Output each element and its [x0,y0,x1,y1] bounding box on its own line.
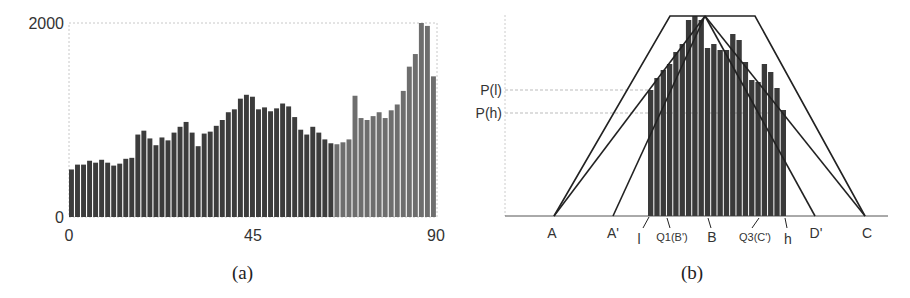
histogram-bar [262,107,267,217]
histogram-bar [87,161,92,217]
caption-a: (a) [232,262,253,284]
histogram-bar [159,137,164,217]
histogram-bar [135,135,140,217]
histogram-bar [178,127,183,217]
histogram-bar [111,166,116,217]
histogram-panel-b: P(l) P(h) A A' l Q1(B') B Q3(C') h D' C … [460,0,910,298]
histogram-bar [654,78,659,216]
histogram-bar [711,44,716,216]
histogram-bar [280,104,285,217]
histogram-bar [705,48,710,216]
caption-b: (b) [681,262,703,284]
histogram-bar [304,135,309,217]
histogram-bar [724,50,729,216]
histogram-bar [99,160,104,217]
histogram-bar [220,120,225,217]
histogram-bar [389,110,394,217]
histogram-bar [347,139,352,217]
histogram-bar [736,40,741,216]
histogram-bar [425,26,430,217]
histogram-bar [648,90,653,216]
histogram-bar [250,97,255,217]
histogram-bar [334,144,339,217]
x-label-D-prime: D' [810,225,823,241]
x-label-C: C [862,225,872,241]
arrow-h [785,218,787,228]
histogram-bar [147,138,152,217]
arrow-Q3 [752,218,759,228]
histogram-bar [371,116,376,217]
histogram-bar [129,158,134,217]
histogram-b-plot: P(l) P(h) A A' l Q1(B') B Q3(C') h D' C [460,0,910,298]
histogram-bar [75,165,80,217]
histogram-bar [268,111,273,217]
histogram-a-bars [69,23,436,217]
x-label-B: B [707,229,716,245]
histogram-bar [718,50,723,216]
histogram-bar [692,16,697,216]
histogram-bar [196,146,201,217]
histogram-bar [768,72,773,216]
histogram-bar [407,67,412,217]
histogram-bar [377,112,382,217]
histogram-bar [226,112,231,217]
histogram-bar [232,109,237,217]
histogram-b-bars [648,16,786,216]
histogram-bar [316,133,321,217]
histogram-bar [172,133,177,217]
histogram-bar [401,91,406,217]
histogram-bar [661,70,666,216]
histogram-bar [256,109,261,217]
histogram-bar [105,163,110,217]
histogram-bar [184,122,189,217]
histogram-bar [730,34,735,216]
x-label-A: A [547,225,557,241]
histogram-bar [431,76,436,217]
histogram-bar [123,159,128,217]
y-tick-0: 0 [55,209,64,226]
histogram-bar [667,64,672,216]
arrow-Q1 [667,218,670,228]
histogram-bar [238,99,243,217]
histogram-bar [395,104,400,217]
histogram-bar [286,106,291,217]
x-label-h: h [784,231,792,247]
histogram-panel-a: 2000 0 0 45 90 (a) [0,0,460,298]
histogram-bar [117,164,122,217]
y-label-P-h: P(h) [476,105,502,121]
histogram-bar [298,130,303,217]
histogram-bar [322,139,327,217]
y-tick-2000: 2000 [28,15,64,32]
histogram-bar [69,169,74,217]
histogram-bar [413,54,418,217]
histogram-bar [699,20,704,216]
histogram-bar [93,163,98,217]
histogram-bar [359,118,364,217]
histogram-bar [353,96,358,217]
x-label-A-prime: A' [607,225,619,241]
histogram-bar [365,120,370,217]
histogram-bar [310,127,315,217]
histogram-a-plot: 2000 0 0 45 90 [0,0,460,298]
histogram-bar [383,118,388,217]
x-label-l: l [637,231,640,247]
histogram-bar [755,82,760,216]
histogram-bar [419,23,424,217]
histogram-bar [274,108,279,217]
arrow-l [643,217,649,228]
histogram-bar [153,145,158,217]
histogram-bar [328,143,333,217]
histogram-bar [141,131,146,217]
histogram-bar [214,126,219,217]
x-tick-90: 90 [427,227,445,244]
histogram-bar [166,140,171,217]
histogram-bar [208,132,213,217]
histogram-bar [340,142,345,217]
y-label-P-l: P(l) [480,82,502,98]
histogram-bar [202,134,207,217]
histogram-bar [190,133,195,217]
x-label-Q1: Q1(B') [656,231,687,243]
x-tick-0: 0 [65,227,74,244]
histogram-bar [292,117,297,217]
x-label-Q3: Q3(C') [739,231,771,243]
